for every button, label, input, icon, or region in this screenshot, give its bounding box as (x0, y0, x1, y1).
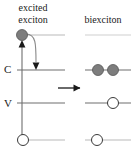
excitation-arrow-head-up (19, 40, 26, 48)
electron-conduction-right-2 (108, 65, 119, 76)
relaxation-arrow-head-down (33, 63, 40, 71)
relaxation-arrow-shaft (26, 34, 36, 62)
biexciton-panel (85, 35, 131, 146)
hole-valence-right (108, 98, 119, 109)
figure-root: excited exciton biexciton C V (0, 0, 138, 154)
level-diagram-svg (0, 0, 138, 154)
excited-exciton-panel (17, 30, 66, 146)
electron-excited-left (17, 30, 28, 41)
electron-conduction-right-1 (93, 65, 104, 76)
hole-ground-right (92, 135, 103, 146)
hole-ground-left (18, 135, 29, 146)
